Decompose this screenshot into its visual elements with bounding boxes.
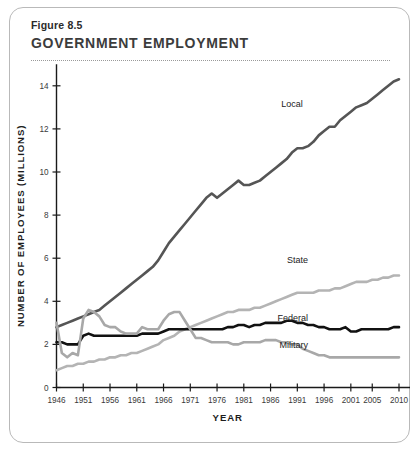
line-chart: 02468101214 1946195119561961196619711976… <box>0 0 419 453</box>
x-tick-label: 1961 <box>128 396 147 405</box>
y-axis-title: NUMBER OF EMPLOYEES (MILLIONS) <box>15 125 26 327</box>
y-tick-label: 4 <box>44 297 49 306</box>
y-tick-label: 10 <box>39 168 49 177</box>
axis-titles: YEARNUMBER OF EMPLOYEES (MILLIONS) <box>15 125 243 423</box>
y-tick-label: 2 <box>44 340 49 349</box>
series-line-local <box>57 79 400 327</box>
x-axis-title: YEAR <box>213 412 243 423</box>
x-tick-label: 1981 <box>235 396 254 405</box>
y-tick-label: 6 <box>44 254 49 263</box>
x-tick-label: 1991 <box>288 396 307 405</box>
x-tick-label: 1951 <box>74 396 93 405</box>
x-tick-label: 1971 <box>181 396 200 405</box>
x-tick-label: 2005 <box>363 396 382 405</box>
x-tick-label: 1966 <box>154 396 173 405</box>
x-axis: 1946195119561961196619711976198119861991… <box>47 384 410 405</box>
y-tick-label: 8 <box>44 211 49 220</box>
x-tick-label: 2001 <box>342 396 361 405</box>
series-labels: LocalStateFederalMilitary <box>278 99 309 349</box>
x-tick-label: 1956 <box>101 396 120 405</box>
series-label-military: Military <box>280 340 309 350</box>
series-label-federal: Federal <box>278 313 309 323</box>
series-label-state: State <box>287 255 308 265</box>
x-tick-label: 1976 <box>208 396 227 405</box>
x-tick-label: 1946 <box>47 396 66 405</box>
series-line-federal <box>57 321 400 345</box>
chart-plot-area: 02468101214 1946195119561961196619711976… <box>0 0 419 453</box>
y-tick-label: 14 <box>39 82 49 91</box>
x-tick-label: 2010 <box>390 396 409 405</box>
series-label-local: Local <box>281 99 303 109</box>
y-tick-label: 12 <box>39 125 49 134</box>
y-tick-label: 0 <box>44 384 49 393</box>
series-line-military <box>57 310 400 357</box>
series-lines <box>57 79 400 370</box>
x-tick-label: 1996 <box>315 396 334 405</box>
x-tick-label: 1986 <box>261 396 280 405</box>
